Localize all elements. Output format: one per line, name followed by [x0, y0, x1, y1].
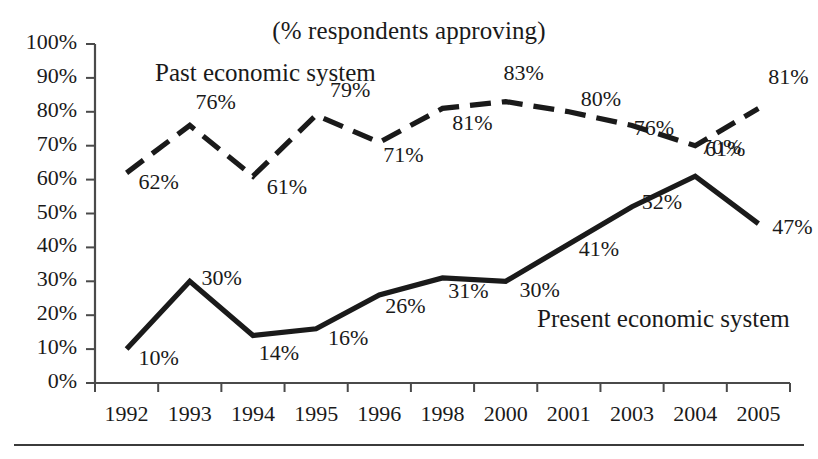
x-axis-label: 1992: [105, 401, 149, 427]
y-axis-label: 50%: [0, 199, 77, 225]
data-point-label: 81%: [452, 110, 492, 136]
x-axis-label: 1994: [231, 401, 275, 427]
series-label-past: Past economic system: [155, 59, 376, 87]
y-axis-label: 60%: [0, 165, 77, 191]
chart-figure: (% respondents approving) 100%90%80%70%6…: [0, 0, 818, 459]
data-point-label: 31%: [448, 278, 488, 304]
x-axis-label: 2000: [484, 401, 528, 427]
x-axis-label: 2001: [547, 401, 591, 427]
y-axis-label: 40%: [0, 232, 77, 258]
data-point-label: 76%: [634, 115, 674, 141]
data-point-label: 76%: [196, 89, 236, 115]
data-point-label: 62%: [138, 169, 178, 195]
data-point-label: 10%: [138, 345, 178, 371]
data-point-label: 47%: [772, 214, 812, 240]
y-axis-label: 10%: [0, 334, 77, 360]
data-point-label: 26%: [385, 293, 425, 319]
data-point-label: 71%: [383, 142, 423, 168]
data-point-label: 41%: [579, 236, 619, 262]
y-axis-label: 30%: [0, 266, 77, 292]
plot-area: [0, 0, 818, 459]
x-axis-label: 1998: [421, 401, 465, 427]
x-axis-label: 2004: [673, 401, 717, 427]
data-point-label: 61%: [705, 136, 745, 162]
x-axis-label: 1995: [294, 401, 338, 427]
data-point-label: 30%: [202, 265, 242, 291]
data-point-label: 81%: [768, 64, 808, 90]
x-axis-label: 2003: [610, 401, 654, 427]
y-axis-label: 100%: [0, 29, 77, 55]
data-point-label: 14%: [259, 340, 299, 366]
y-axis-label: 80%: [0, 97, 77, 123]
data-point-label: 30%: [520, 277, 560, 303]
x-axis-label: 1996: [357, 401, 401, 427]
x-axis-label: 2005: [736, 401, 780, 427]
y-axis-label: 0%: [0, 368, 77, 394]
data-point-label: 52%: [642, 189, 682, 215]
bottom-horizontal-rule: [14, 444, 804, 446]
y-axis-label: 90%: [0, 63, 77, 89]
data-point-label: 80%: [581, 86, 621, 112]
y-axis-label: 20%: [0, 300, 77, 326]
y-axis-label: 70%: [0, 131, 77, 157]
series-label-present: Present economic system: [537, 305, 790, 333]
data-point-label: 61%: [267, 174, 307, 200]
x-axis-label: 1993: [168, 401, 212, 427]
data-point-label: 83%: [504, 60, 544, 86]
data-point-label: 16%: [328, 325, 368, 351]
axis-lines: [86, 44, 790, 392]
